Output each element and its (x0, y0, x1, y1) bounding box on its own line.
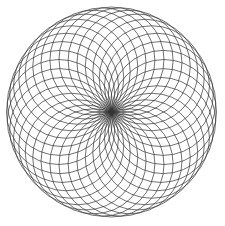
rosette-svg (0, 0, 225, 226)
rosette-figure (0, 0, 225, 226)
